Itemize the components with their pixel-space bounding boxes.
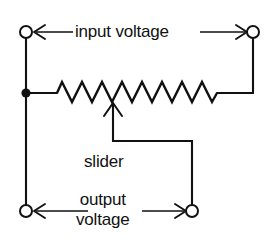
terminal-bottom-right[interactable]: [186, 205, 198, 217]
label-output-voltage-line2: voltage: [76, 210, 129, 230]
label-output-voltage: output voltage: [76, 190, 129, 230]
schematic-diagram: input voltage slider output voltage: [0, 0, 267, 243]
label-input-voltage: input voltage: [75, 22, 169, 41]
terminal-bottom-left[interactable]: [20, 205, 32, 217]
terminal-top-left[interactable]: [20, 26, 32, 38]
label-output-voltage-line1: output: [76, 190, 129, 210]
label-slider: slider: [84, 152, 123, 171]
terminal-top-right[interactable]: [247, 26, 259, 38]
resistor-zigzag: [57, 82, 217, 102]
